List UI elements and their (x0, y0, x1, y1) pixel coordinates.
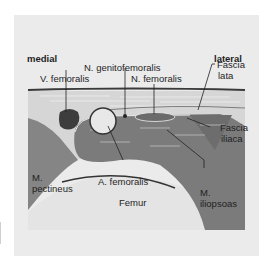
femoral-artery (90, 108, 116, 134)
label-femur: Femur (119, 197, 146, 208)
label-m-pectineus-1: M. (32, 172, 43, 183)
label-fascia-lata-2: lata (218, 70, 233, 81)
label-m-iliopsoas-1: M. (200, 187, 211, 198)
fascia-lata-line (28, 89, 245, 91)
label-a-femoralis: A. femoralis (98, 176, 148, 187)
label-n-femoralis: N. femoralis (131, 73, 182, 84)
label-m-pectineus-2: pectineus (32, 183, 73, 194)
label-n-genitofemoralis: N. genitofemoralis (84, 62, 161, 73)
label-m-iliopsoas-2: iliopsoas (200, 198, 237, 209)
label-medial: medial (27, 53, 57, 64)
label-fascia-iliaca-1: Fascia (220, 122, 248, 133)
label-fascia-lata-1: Fascia (217, 59, 245, 70)
label-v-femoralis: V. femoralis (40, 73, 89, 84)
femoral-nerve (135, 113, 175, 122)
genitofemoral-nerve (123, 114, 127, 118)
label-fascia-iliaca-2: iliaca (221, 133, 243, 144)
